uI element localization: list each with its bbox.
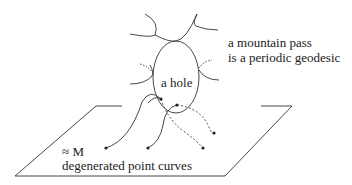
label-hole: a hole	[161, 75, 192, 90]
curve-solid-1	[106, 94, 161, 148]
side-arc-right	[199, 70, 219, 80]
label-approx-m: ≈ M	[62, 144, 84, 159]
label-mountain-pass-line1: a mountain pass	[228, 35, 340, 50]
point-junction-1	[159, 97, 162, 100]
curve-dashed-1	[161, 99, 203, 148]
curve-solid-2	[148, 105, 177, 148]
side-arc-left	[130, 65, 153, 84]
label-mountain-pass: a mountain pass is a periodic geodesic	[228, 35, 340, 65]
point-junction-2	[175, 103, 178, 106]
curve-dashed-2	[177, 105, 214, 133]
saddle-arc-top-center	[155, 14, 197, 41]
label-degenerated: degenerated point curves	[62, 158, 192, 173]
point-end-2	[146, 146, 149, 149]
point-end-1	[104, 146, 107, 149]
dotted-arc-right	[199, 60, 212, 68]
saddle-arc-top-left	[130, 14, 156, 36]
point-end-4	[212, 131, 215, 134]
label-mountain-pass-line2: is a periodic geodesic	[228, 50, 340, 65]
saddle-arc-top-right	[194, 14, 218, 30]
point-end-3	[201, 146, 204, 149]
